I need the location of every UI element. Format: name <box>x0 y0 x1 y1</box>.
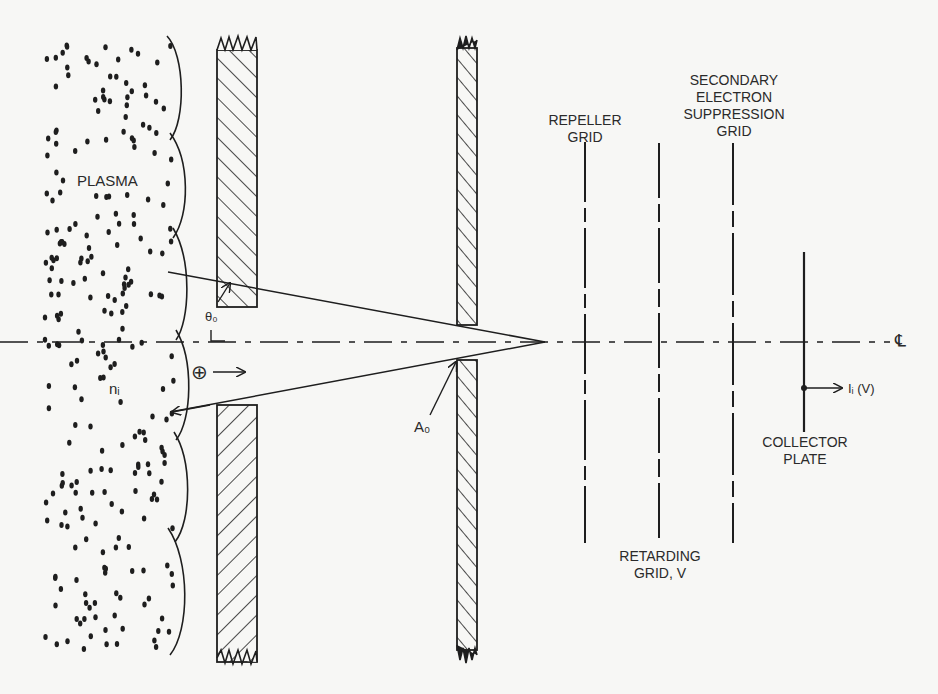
rpa-diagram: PLASMA nᵢ θ₀ A₀ ⊕ REPELLER GRID SECONDAR… <box>0 0 938 694</box>
plasma-label: PLASMA <box>77 172 138 189</box>
retarding-label-line1: RETARDING <box>605 548 715 565</box>
aperture-pointer-arrow <box>430 362 456 415</box>
ion-symbol: ⊕ <box>191 361 208 383</box>
retarding-label-line2: GRID, V <box>605 565 715 582</box>
entrance-wall-upper <box>217 36 257 307</box>
repeller-label-line1: REPELLER <box>530 112 640 129</box>
aperture-plate-lower <box>457 360 477 663</box>
collector-label-line2: PLATE <box>750 451 860 468</box>
centerline-symbol: ℄ <box>895 332 906 349</box>
suppression-label-line2: ELECTRON <box>672 89 796 106</box>
retarding-grid-label: RETARDING GRID, V <box>605 548 715 582</box>
ion-density-label: nᵢ <box>109 380 120 397</box>
repeller-label-line2: GRID <box>530 129 640 146</box>
collector-current-label: Iᵢ (V) <box>848 380 875 397</box>
density-pointer-arrow <box>172 405 210 412</box>
suppression-label-line4: GRID <box>672 123 796 140</box>
theta-label: θ₀ <box>205 308 218 325</box>
entrance-wall-lower <box>217 405 257 664</box>
angle-marker <box>211 330 225 341</box>
suppression-label-line3: SUPPRESSION <box>672 106 796 123</box>
suppression-grid-label: SECONDARY ELECTRON SUPPRESSION GRID <box>672 72 796 140</box>
collector-plate-label: COLLECTOR PLATE <box>750 434 860 468</box>
suppression-label-line1: SECONDARY <box>672 72 796 89</box>
diagram-canvas <box>0 0 938 694</box>
repeller-grid-label: REPELLER GRID <box>530 112 640 146</box>
sheath-boundary <box>167 36 189 655</box>
collector-label-line1: COLLECTOR <box>750 434 860 451</box>
aperture-plate-upper <box>457 36 477 325</box>
plasma-particles <box>43 43 176 653</box>
aperture-label: A₀ <box>414 418 430 435</box>
